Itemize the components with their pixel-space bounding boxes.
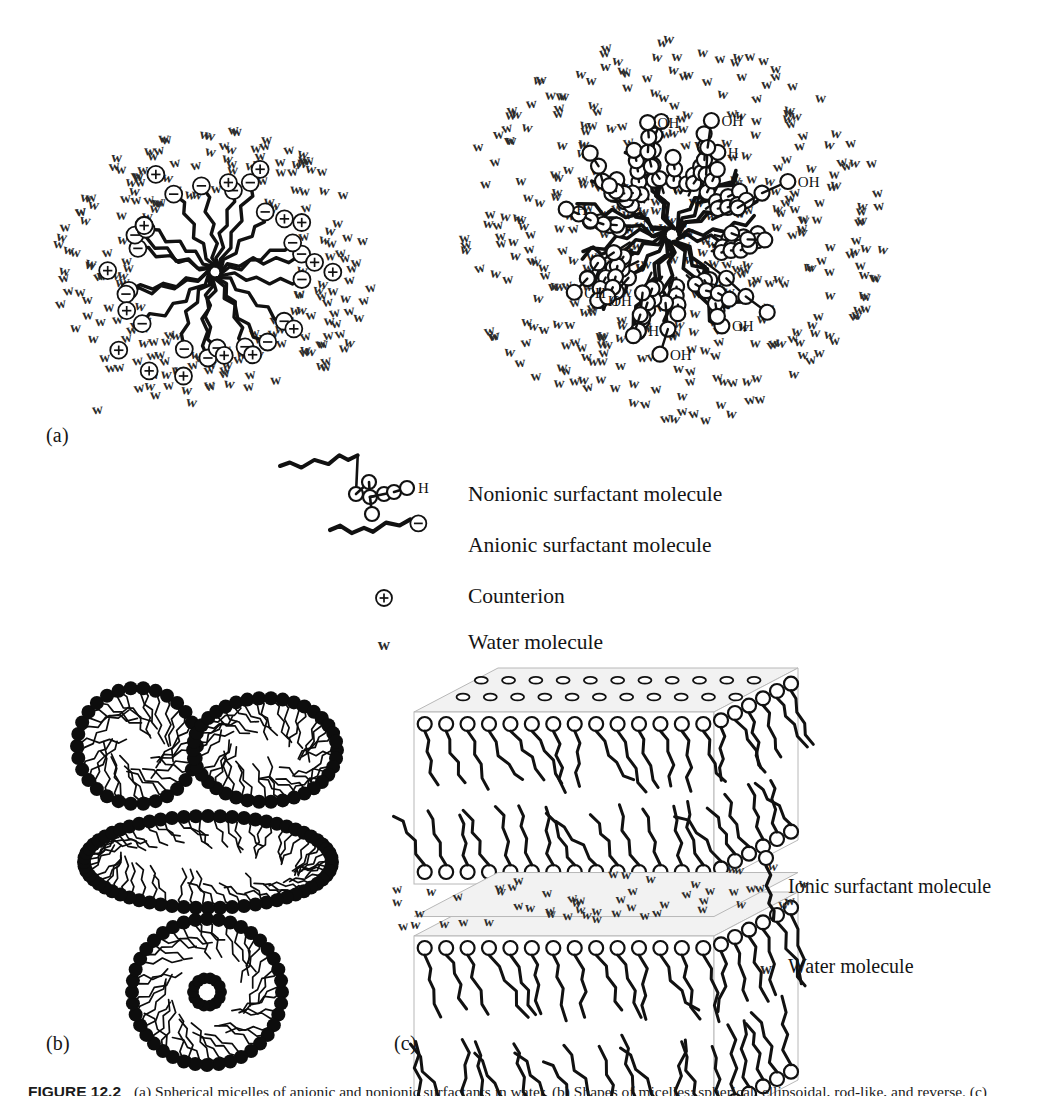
water-molecule-glyph: w [378,635,391,654]
head-group-circle [546,717,560,731]
water-molecule-glyph: w [876,240,890,258]
water-molecule-glyph: w [342,228,354,244]
water-molecule-glyph: w [483,914,495,930]
water-molecule-glyph: w [822,135,836,153]
water-molecule-glyph: w [639,907,651,923]
water-glyph: w [378,635,391,654]
water-molecule-glyph: w [714,50,726,67]
water-molecule-glyph: w [796,126,810,144]
water-molecule-glyph: w [754,390,767,407]
water-molecule-glyph: w [350,253,362,270]
water-molecule-glyph: w [533,193,546,210]
water-molecule-glyph: w [716,84,730,102]
water-molecule-glyph: w [162,376,174,393]
head-group-circle [770,832,784,846]
water-molecule-glyph: w [261,131,273,148]
water-molecule-glyph: w [410,916,422,932]
panel-a-canvas: wwwwwwwwwwwwwwwwwwwwwwwwwwwwwwwwwwwwwwww… [0,0,1041,440]
water-molecule-glyph: w [82,291,93,307]
water-molecule-glyph: w [85,189,97,206]
head-group-circle [675,694,688,701]
water-molecule-glyph: w [116,206,127,222]
head-group-circle [418,941,432,955]
water-molecule-glyph: w [595,370,607,386]
water-molecule-glyph: w [812,211,823,227]
water-molecule-glyph: w [687,322,701,340]
head-group-circle [568,717,582,731]
legend-label-ionic-surfactant: Ionic surfactant molecule [788,875,991,898]
ethoxylate-bead [780,174,795,189]
head-group-circle [457,694,470,701]
water-molecule-glyph: w [520,118,534,136]
head-group-circle [653,941,667,955]
ethoxylate-bead [670,306,685,321]
water-molecule-glyph: w [758,52,770,68]
water-molecule-glyph: w [298,151,310,167]
water-molecule-glyph: w [82,306,94,323]
water-molecule-glyph: w [132,379,146,397]
water-molecule-glyph: w [343,271,356,288]
water-molecule-glyph: w [150,386,162,403]
water-molecule-glyph: w [325,247,336,263]
water-molecule-glyph: w [546,906,557,921]
head-group-circle [593,694,606,701]
water-molecule-glyph: w [650,380,663,397]
water-molecule-glyph: w [319,351,333,369]
hydroxyl-label: H [576,202,587,218]
head-group-circle [748,677,761,684]
hydroxyl-label: H [728,145,739,161]
water-molecule-glyph: w [697,43,710,60]
head-group-circle [482,941,496,955]
head-group-circle [647,694,660,701]
water-molecule-glyph: w [564,316,575,332]
water-molecule-glyph: w [161,332,173,348]
water-molecule-glyph: w [731,48,744,66]
water-molecule-glyph: w [621,867,633,883]
water-molecule-glyph: w [115,161,126,177]
head-group-circle [439,941,453,955]
water-molecule-glyph: w [95,313,107,329]
water-molecule-glyph: w [473,258,487,276]
water-molecule-glyph: w [536,71,547,87]
water-molecule-glyph: w [392,894,404,909]
head-group-circle [503,717,517,731]
terminal-hydrogen-label: H [418,480,429,496]
water-molecule-glyph: w [479,175,491,192]
head-group-circle [557,677,570,684]
water-molecule-glyph: w [138,334,151,351]
head-group-circle [784,825,798,839]
head-group-circle [638,677,651,684]
water-molecule-glyph: w [242,377,255,394]
water-molecule-glyph: w [611,905,622,920]
water-molecule-glyph: w [563,161,575,178]
head-group-circle [742,699,756,713]
water-molecule-glyph: w [459,235,473,253]
water-molecule-glyph: w [364,278,377,295]
legend-label-water-right: Water molecule [788,955,914,978]
ethoxylate-bead [666,150,681,165]
ethoxylate-bead [583,146,598,161]
ethoxylate-bead [567,285,582,300]
head-group-circle [611,941,625,955]
head-group-circle [584,677,597,684]
water-glyph: w [760,960,772,977]
panel-c: wwwwwwwwwwwwwwwwwwwwwwwwwwwwwwwwwwwwwwww… [0,680,760,1070]
hydroxyl-label: OH [798,174,820,190]
water-molecule-glyph: w [70,319,81,335]
water-molecule-glyph: w [299,182,311,198]
water-molecule-glyph: w [806,315,818,332]
head-group-circle [714,713,728,727]
head-group-circle [418,865,432,879]
anionic-micelle: wwwwwwwwwwwwwwwwwwwwwwwwwwwwwwwwwwwwwwww… [53,121,377,418]
head-group-circle [759,851,773,865]
water-molecule-glyph: w [101,243,114,260]
ethoxylate-bead [626,328,641,343]
head-group-circle [693,677,706,684]
water-molecule-glyph: w [853,212,866,229]
water-molecule-glyph: w [203,376,215,393]
water-molecule-glyph: w [316,163,328,179]
head-group-circle [546,941,560,955]
water-molecule-glyph: w [717,372,730,389]
water-molecule-glyph: w [551,315,565,333]
slab-front-face [414,712,714,884]
